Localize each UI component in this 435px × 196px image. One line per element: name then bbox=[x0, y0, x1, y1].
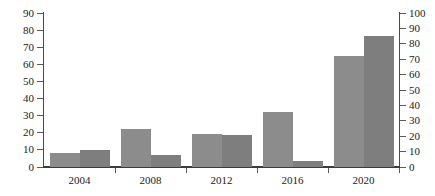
y-axis-right-tick bbox=[400, 167, 406, 168]
x-axis-tick bbox=[186, 168, 187, 173]
bar-series-right-2004 bbox=[80, 150, 110, 167]
bar-series-left-2016 bbox=[263, 112, 293, 167]
bar-series-left-2004 bbox=[50, 153, 80, 167]
bar-series-left-2020 bbox=[334, 56, 364, 167]
y-axis-right-tick bbox=[400, 74, 406, 75]
bar-series-right-2012 bbox=[222, 135, 252, 167]
y-axis-right-tick bbox=[400, 151, 406, 152]
y-axis-right-tick-label: 40 bbox=[409, 100, 420, 111]
y-axis-left-tick bbox=[37, 167, 43, 168]
y-axis-right-tick-label: 80 bbox=[409, 38, 420, 49]
y-axis-left-tick bbox=[37, 149, 43, 150]
y-axis-left-tick bbox=[37, 98, 43, 99]
y-axis-right-tick bbox=[400, 59, 406, 60]
y-axis-right-tick bbox=[400, 43, 406, 44]
y-axis-left-tick bbox=[37, 13, 43, 14]
bar-series-right-2020 bbox=[364, 36, 394, 167]
y-axis-right-tick bbox=[400, 28, 406, 29]
y-axis-right-tick-label: 60 bbox=[409, 69, 420, 80]
x-axis-category-label: 2020 bbox=[334, 175, 394, 186]
y-axis-left-tick bbox=[37, 30, 43, 31]
x-axis-tick bbox=[115, 168, 116, 173]
y-axis-left-tick-label: 50 bbox=[23, 76, 34, 87]
y-axis-left-tick-label: 70 bbox=[23, 42, 34, 53]
y-axis-right-tick-label: 10 bbox=[409, 146, 420, 157]
y-axis-left-tick-label: 90 bbox=[23, 8, 34, 19]
y-axis-left-tick bbox=[37, 64, 43, 65]
bar-series-left-2012 bbox=[192, 134, 222, 167]
bar-series-right-2016 bbox=[293, 161, 323, 167]
y-axis-right-tick-label: 70 bbox=[409, 54, 420, 65]
x-axis-tick bbox=[257, 168, 258, 173]
x-axis-category-label: 2004 bbox=[50, 175, 110, 186]
bar-series-right-2008 bbox=[151, 155, 181, 167]
bar-series-left-2008 bbox=[121, 129, 151, 167]
bar-chart: 0102030405060708090010203040506070809010… bbox=[0, 0, 435, 196]
y-axis-left-tick-label: 30 bbox=[23, 110, 34, 121]
y-axis-left-tick-label: 0 bbox=[29, 162, 35, 173]
x-axis-category-label: 2012 bbox=[192, 175, 252, 186]
y-axis-left-tick-label: 40 bbox=[23, 93, 34, 104]
y-axis-right-tick-label: 90 bbox=[409, 23, 420, 34]
y-axis-left-tick bbox=[37, 81, 43, 82]
y-axis-right-tick-label: 0 bbox=[409, 162, 415, 173]
y-axis-right-tick bbox=[400, 136, 406, 137]
x-axis-tick bbox=[328, 168, 329, 173]
y-axis-right-tick-label: 30 bbox=[409, 115, 420, 126]
y-axis-left-tick-label: 60 bbox=[23, 59, 34, 70]
y-axis-right-tick-label: 50 bbox=[409, 85, 420, 96]
y-axis-right-tick bbox=[400, 13, 406, 14]
y-axis-left-tick-label: 10 bbox=[23, 144, 34, 155]
y-axis-right-tick-label: 100 bbox=[409, 8, 426, 19]
y-axis-right-tick bbox=[400, 120, 406, 121]
x-axis-category-label: 2016 bbox=[263, 175, 323, 186]
y-axis-right-tick bbox=[400, 105, 406, 106]
y-axis-left-tick bbox=[37, 132, 43, 133]
y-axis-right-tick bbox=[400, 90, 406, 91]
x-axis-category-label: 2008 bbox=[121, 175, 181, 186]
y-axis-left-line bbox=[43, 12, 44, 168]
y-axis-right-tick-label: 20 bbox=[409, 131, 420, 142]
y-axis-left-tick-label: 20 bbox=[23, 127, 34, 138]
x-axis-tick bbox=[399, 168, 400, 173]
y-axis-left-tick-label: 80 bbox=[23, 25, 34, 36]
y-axis-left-tick bbox=[37, 115, 43, 116]
y-axis-left-tick bbox=[37, 47, 43, 48]
